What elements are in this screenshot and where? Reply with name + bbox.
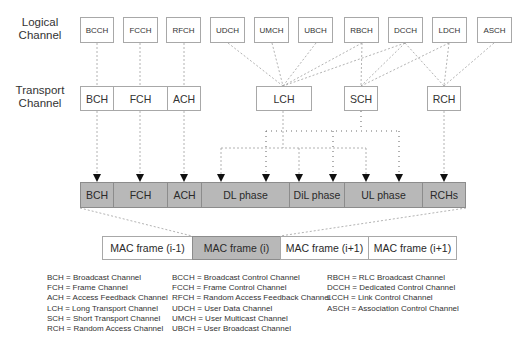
transport-channel-ach: ACH: [167, 86, 201, 111]
legend-item: RCH = Random Access Channel: [47, 324, 168, 334]
transport-channel-fch: FCH: [113, 86, 168, 111]
legend-item: UBCH = User Broadcast Channel: [172, 324, 331, 334]
logical-channel-label: Logical Channel: [14, 16, 66, 42]
logical-channel-udch: UDCH: [210, 17, 245, 43]
mac-frame-next: MAC frame (i+1): [280, 236, 369, 260]
frame-segment-fch: FCH: [113, 182, 168, 208]
logical-channel-ldch: LDCH: [432, 17, 467, 43]
frame-segment-bch: BCH: [80, 182, 114, 208]
logical-channel-umch: UMCH: [254, 17, 289, 43]
logical-label-line2: Channel: [14, 29, 66, 42]
logical-channel-dcch: DCCH: [388, 17, 423, 43]
logical-label-line1: Logical: [14, 16, 66, 29]
transport-channel-rch: RCH: [427, 86, 461, 111]
transport-label-line1: Transport: [12, 84, 68, 97]
transport-channel-lch: LCH: [256, 86, 312, 111]
logical-channel-rbch: RBCH: [344, 17, 379, 43]
legend-item: UDCH = User Data Channel: [172, 304, 331, 314]
mac-frame-current: MAC frame (i): [192, 236, 281, 260]
frame-segment-dil-phase: DiL phase: [289, 182, 345, 208]
logical-channel-fcch: FCCH: [123, 17, 158, 43]
legend-item: RBCH = RLC Broadcast Channel: [327, 273, 459, 283]
legend-item: LCH = Long Transport Channel: [47, 304, 168, 314]
mac-frame-prev: MAC frame (i-1): [102, 236, 193, 260]
legend-item: ACH = Access Feedback Channel: [47, 293, 168, 303]
logical-channel-ubch: UBCH: [298, 17, 333, 43]
legend-item: DCCH = Dedicated Control Channel: [327, 283, 459, 293]
legend-item: FCCH = Frame Control Channel: [172, 283, 331, 293]
legend-item: BCCH = Broadcast Control Channel: [172, 273, 331, 283]
legend-transport-channels: BCH = Broadcast Channel FCH = Frame Chan…: [47, 273, 168, 334]
transport-channel-bch: BCH: [80, 86, 114, 111]
legend-item: LCCH = Link Control Channel: [327, 293, 459, 303]
logical-channel-bcch: BCCH: [80, 17, 114, 43]
frame-segment-rchs: RCHs: [422, 182, 466, 208]
legend-logical-channels: BCCH = Broadcast Control Channel FCCH = …: [172, 273, 331, 334]
frame-segment-dl-phase: DL phase: [201, 182, 290, 208]
transport-channel-sch: SCH: [344, 86, 378, 111]
legend-item: UMCH = User Multicast Channel: [172, 314, 331, 324]
frame-segment-ach: ACH: [167, 182, 202, 208]
legend-item: RFCH = Random Access Feedback Channel: [172, 293, 331, 303]
mac-frame-next-2: MAC frame (i+1): [368, 236, 457, 260]
legend-control-channels: RBCH = RLC Broadcast Channel DCCH = Dedi…: [327, 273, 459, 314]
frame-segment-ul-phase: UL phase: [344, 182, 423, 208]
logical-channel-asch: ASCH: [477, 17, 512, 43]
transport-channel-label: Transport Channel: [12, 84, 68, 110]
logical-channel-rfch: RFCH: [166, 17, 201, 43]
legend-item: ASCH = Association Control Channel: [327, 304, 459, 314]
legend-item: FCH = Frame Channel: [47, 283, 168, 293]
legend-item: SCH = Short Transport Channel: [47, 314, 168, 324]
legend-item: BCH = Broadcast Channel: [47, 273, 168, 283]
transport-label-line2: Channel: [12, 97, 68, 110]
